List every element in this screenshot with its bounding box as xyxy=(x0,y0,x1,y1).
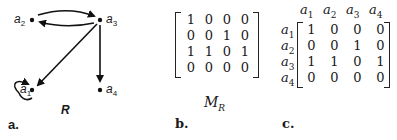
node-a4-label: a4 xyxy=(106,82,117,98)
matrix-row: 1101 xyxy=(182,44,254,60)
graph-label: R xyxy=(61,103,70,117)
node-a3-dot xyxy=(98,18,102,22)
node-a2-dot xyxy=(30,18,34,22)
matrix-row: 0000 xyxy=(300,70,392,86)
matrix-row: 0000 xyxy=(182,60,254,76)
panel-b-label: b. xyxy=(175,116,189,131)
matrix-row: 1101 xyxy=(300,54,392,70)
matrix-row: 0010 xyxy=(182,28,254,44)
matrix-row: 1000 xyxy=(300,22,392,38)
node-a4-dot xyxy=(98,88,102,92)
matrix-labeled: 1000 0010 1101 0000 xyxy=(300,22,392,86)
column-headers: a1 a2 a3 a4 xyxy=(300,2,390,18)
panel-a-label: a. xyxy=(8,117,19,132)
node-a3-label: a3 xyxy=(106,12,117,28)
matrix-row: 0010 xyxy=(300,38,392,54)
col-header: a4 xyxy=(369,2,383,20)
matrix-mr: 1000 0010 1101 0000 xyxy=(182,12,254,76)
matrix-row: 1000 xyxy=(182,12,254,28)
matrix-name: MR xyxy=(204,94,225,113)
node-a2-label: a2 xyxy=(14,12,25,28)
col-header: a1 xyxy=(300,2,314,20)
col-header: a3 xyxy=(346,2,360,20)
panel-c-label: c. xyxy=(282,116,294,131)
col-header: a2 xyxy=(323,2,337,20)
matrix-left-bracket xyxy=(175,12,181,78)
node-a1-label: a1 xyxy=(20,82,31,98)
